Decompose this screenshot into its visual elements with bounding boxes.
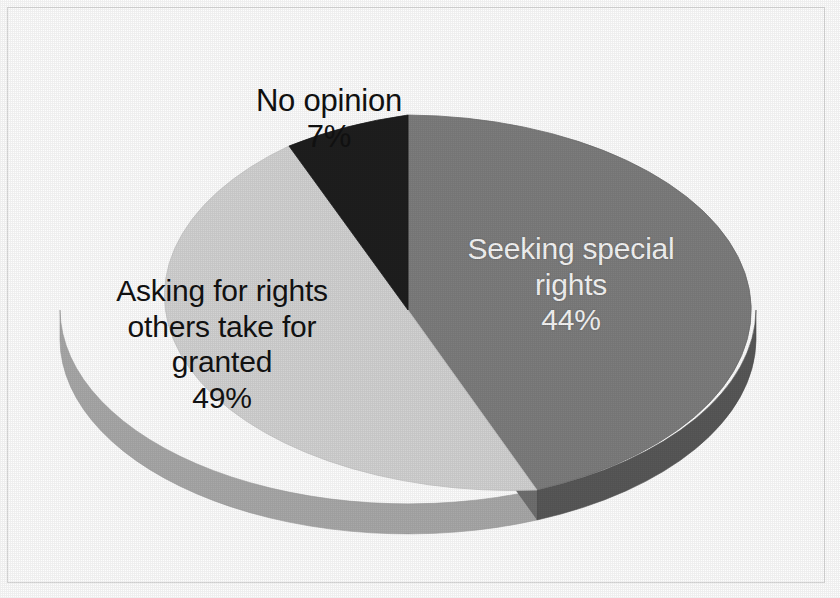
pie-label-asking-percent: 49% bbox=[88, 380, 356, 415]
pie-label-no-opinion-text: No opinion bbox=[256, 83, 402, 118]
pie-label-no-opinion: No opinion 7% bbox=[204, 46, 454, 192]
pie-label-asking-text: Asking for rights others take for grante… bbox=[116, 274, 328, 378]
pie-chart-figure: No opinion 7% Seeking special rights 44%… bbox=[0, 0, 840, 598]
pie-label-seeking-text: Seeking special rights bbox=[467, 232, 674, 300]
pie-label-seeking-special-rights: Seeking special rights 44% bbox=[437, 196, 705, 373]
pie-label-no-opinion-percent: 7% bbox=[204, 119, 454, 156]
pie-label-seeking-percent: 44% bbox=[437, 302, 705, 337]
pie-label-asking-for-rights: Asking for rights others take for grante… bbox=[88, 238, 356, 450]
